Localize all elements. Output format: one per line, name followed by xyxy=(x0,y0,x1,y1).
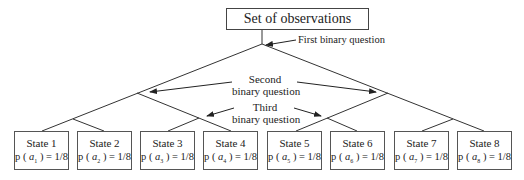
state-label: State 6 xyxy=(331,137,384,150)
state-label: State 4 xyxy=(204,137,257,150)
first-question-label: First binary question xyxy=(298,34,385,46)
state-probability: p ( a3 ) = 1/8 xyxy=(141,150,194,168)
third-question-line2: binary question xyxy=(232,113,298,125)
state-node-4: State 4 p ( a4 ) = 1/8 xyxy=(203,131,258,170)
state-label: State 1 xyxy=(15,137,68,150)
third-question-line1: Third xyxy=(232,101,298,113)
second-question-label: Second binary question xyxy=(232,73,298,97)
state-label: State 5 xyxy=(268,137,321,150)
state-node-2: State 2 p ( a2 ) = 1/8 xyxy=(77,131,132,170)
state-node-8: State 8 p ( a8 ) = 1/8 xyxy=(457,131,512,170)
state-probability: p ( a8 ) = 1/8 xyxy=(458,150,511,168)
state-label: State 7 xyxy=(395,137,448,150)
state-probability: p ( a7 ) = 1/8 xyxy=(395,150,448,168)
state-probability: p ( a5 ) = 1/8 xyxy=(268,150,321,168)
state-label: State 3 xyxy=(141,137,194,150)
state-node-6: State 6 p ( a6 ) = 1/8 xyxy=(330,131,385,170)
state-node-3: State 3 p ( a3 ) = 1/8 xyxy=(140,131,195,170)
state-probability: p ( a6 ) = 1/8 xyxy=(331,150,384,168)
second-question-line1: Second xyxy=(232,73,298,85)
root-node-label: Set of observations xyxy=(244,11,351,26)
state-node-7: State 7 p ( a7 ) = 1/8 xyxy=(394,131,449,170)
state-probability: p ( a2 ) = 1/8 xyxy=(78,150,131,168)
root-node-box: Set of observations xyxy=(226,8,369,30)
state-label: State 8 xyxy=(458,137,511,150)
second-question-line2: binary question xyxy=(232,85,298,97)
state-node-5: State 5 p ( a5 ) = 1/8 xyxy=(267,131,322,170)
state-probability: p ( a4 ) = 1/8 xyxy=(204,150,257,168)
state-label: State 2 xyxy=(78,137,131,150)
third-question-label: Third binary question xyxy=(232,101,298,125)
state-node-1: State 1 p ( a1 ) = 1/8 xyxy=(14,131,69,170)
state-probability: p ( a1 ) = 1/8 xyxy=(15,150,68,168)
